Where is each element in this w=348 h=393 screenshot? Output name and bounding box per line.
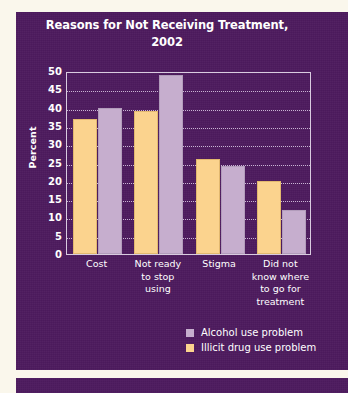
legend-label: Illicit drug use problem <box>201 342 316 354</box>
y-axis-tick-label: 20 <box>36 177 62 187</box>
chart-title: Reasons for Not Receiving Treatment, 200… <box>28 17 306 51</box>
x-axis-label-line: treatment <box>250 296 311 309</box>
legend-swatch-icon <box>186 344 194 352</box>
next-section-panel <box>16 378 348 393</box>
page-canvas: Reasons for Not Receiving Treatment, 200… <box>0 0 348 393</box>
bar-alcohol-1 <box>159 75 183 254</box>
y-axis-tick-label: 15 <box>36 195 62 205</box>
x-axis-label-line: Cost <box>66 258 127 271</box>
bar-alcohol-2 <box>221 166 245 254</box>
bar-illicit-1 <box>134 111 158 254</box>
y-axis-tick-label: 30 <box>36 140 62 150</box>
bar-illicit-3 <box>257 181 281 254</box>
legend-item-illicit: Illicit drug use problem <box>186 340 326 355</box>
legend-swatch-icon <box>186 329 194 337</box>
chart-title-line-1: Reasons for Not Receiving Treatment, <box>28 17 306 34</box>
y-axis-tick-label: 35 <box>36 122 62 132</box>
x-axis-label-3: Did notknow whereto go fortreatment <box>250 258 311 308</box>
bar-alcohol-3 <box>282 210 306 254</box>
x-axis-category-labels: CostNot readyto stopusingStigmaDid notkn… <box>66 258 311 324</box>
x-axis-label-0: Cost <box>66 258 127 271</box>
legend-label: Alcohol use problem <box>201 327 303 339</box>
y-axis-tick-label: 40 <box>36 104 62 114</box>
legend-item-alcohol: Alcohol use problem <box>186 325 326 340</box>
x-axis-label-line: Stigma <box>189 258 250 271</box>
chart-title-line-2: 2002 <box>28 34 306 51</box>
bar-illicit-2 <box>196 159 220 254</box>
x-axis-label-line: know where <box>250 271 311 284</box>
bars-layer <box>67 73 310 254</box>
x-axis-label-line: to go for <box>250 283 311 296</box>
y-axis-tick-label: 0 <box>36 250 62 260</box>
y-axis-tick-label: 5 <box>36 232 62 242</box>
x-axis-label-line: Did not <box>250 258 311 271</box>
x-axis-label-2: Stigma <box>189 258 250 271</box>
x-axis-label-line: using <box>127 283 188 296</box>
bar-alcohol-0 <box>98 108 122 254</box>
y-axis-tick-label: 10 <box>36 213 62 223</box>
y-axis-tick-label: 50 <box>36 67 62 77</box>
bar-illicit-0 <box>73 119 97 254</box>
x-axis-label-line: to stop <box>127 271 188 284</box>
y-axis-tick-label: 25 <box>36 159 62 169</box>
y-axis-tick-label: 45 <box>36 85 62 95</box>
chart-legend: Alcohol use problemIllicit drug use prob… <box>186 325 326 355</box>
x-axis-label-1: Not readyto stopusing <box>127 258 188 296</box>
x-axis-label-line: Not ready <box>127 258 188 271</box>
plot-area <box>66 72 311 255</box>
y-axis-tick-labels: 50454035302520151050 <box>34 72 62 255</box>
